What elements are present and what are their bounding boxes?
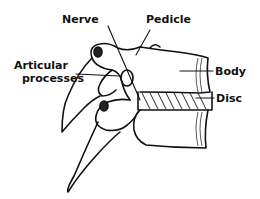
label-processes: processes bbox=[22, 73, 84, 84]
upper-vertebral-body bbox=[140, 47, 210, 93]
pedicle-shape bbox=[150, 45, 160, 48]
label-body: Body bbox=[215, 66, 246, 77]
label-articular: Articular bbox=[14, 60, 68, 71]
pedicle-leader-line bbox=[136, 30, 150, 55]
label-pedicle: Pedicle bbox=[146, 14, 191, 25]
vertebrae-diagram: Nerve Pedicle Articular processes Body D… bbox=[0, 0, 260, 199]
upper-articular-process bbox=[98, 70, 116, 96]
label-nerve: Nerve bbox=[62, 14, 99, 25]
label-disc: Disc bbox=[216, 93, 242, 104]
lower-spinous-process bbox=[68, 122, 120, 192]
